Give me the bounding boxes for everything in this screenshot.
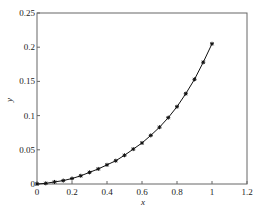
- y-tick-label: 0.05: [19, 145, 35, 155]
- asterisk-marker: [158, 125, 162, 129]
- x-tick-label: 0.6: [136, 187, 148, 197]
- asterisk-marker: [184, 92, 188, 96]
- x-tick-label: 1: [210, 187, 215, 197]
- asterisk-marker: [53, 180, 57, 184]
- asterisk-marker: [131, 147, 135, 151]
- x-tick-label: 0.2: [66, 187, 77, 197]
- line-chart: 00.20.40.60.811.200.050.10.150.20.25 x y: [0, 0, 263, 220]
- x-tick-label: 0.8: [171, 187, 183, 197]
- asterisk-marker: [61, 179, 65, 183]
- asterisk-marker: [210, 42, 214, 46]
- x-tick-label: 0.4: [101, 187, 113, 197]
- asterisk-marker: [123, 153, 127, 157]
- asterisk-marker: [88, 170, 92, 174]
- asterisk-marker: [70, 177, 74, 181]
- asterisk-marker: [96, 167, 100, 171]
- asterisk-marker: [201, 60, 205, 64]
- asterisk-marker: [166, 116, 170, 120]
- y-tick-label: 0.15: [19, 76, 35, 86]
- x-tick-label: 0: [35, 187, 40, 197]
- asterisk-marker: [149, 133, 153, 137]
- data-series: [35, 42, 214, 186]
- y-tick-label: 0.25: [19, 8, 35, 18]
- y-tick-label: 0: [31, 179, 36, 189]
- asterisk-marker: [105, 163, 109, 167]
- asterisk-marker: [193, 77, 197, 81]
- y-tick-label: 0.1: [24, 111, 35, 121]
- y-tick-label: 0.2: [24, 42, 35, 52]
- axes: 00.20.40.60.811.200.050.10.150.20.25: [19, 8, 252, 197]
- asterisk-marker: [44, 181, 48, 185]
- series-line: [37, 44, 212, 184]
- plot-frame: [37, 13, 247, 184]
- asterisk-marker: [140, 141, 144, 145]
- asterisk-marker: [79, 174, 83, 178]
- asterisk-marker: [175, 105, 179, 109]
- x-axis-label: x: [140, 197, 145, 207]
- x-tick-label: 1.2: [241, 187, 252, 197]
- asterisk-marker: [35, 182, 39, 186]
- asterisk-marker: [114, 159, 118, 163]
- y-axis-label: y: [4, 98, 14, 103]
